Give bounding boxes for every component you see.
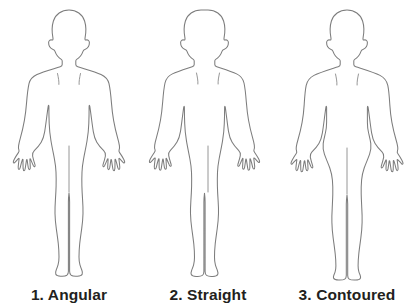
straight-body-outline-icon [139,0,277,284]
figure-2-straight[interactable] [139,0,277,284]
figure-2-label: 2. Straight [139,284,277,306]
figure-3-contoured[interactable] [278,0,416,284]
body-figures-row [0,0,416,284]
figure-1-angular[interactable] [0,0,138,284]
body-shape-chart: 1. Angular 2. Straight 3. Contoured [0,0,416,306]
figure-3-label: 3. Contoured [278,284,416,306]
contoured-body-silhouette [291,10,403,280]
contoured-body-outline-icon [278,0,416,284]
angular-body-outline-icon [0,0,138,284]
figure-1-label: 1. Angular [0,284,138,306]
straight-body-silhouette [149,10,259,276]
angular-body-silhouette [13,10,124,276]
figure-labels-row: 1. Angular 2. Straight 3. Contoured [0,284,416,306]
